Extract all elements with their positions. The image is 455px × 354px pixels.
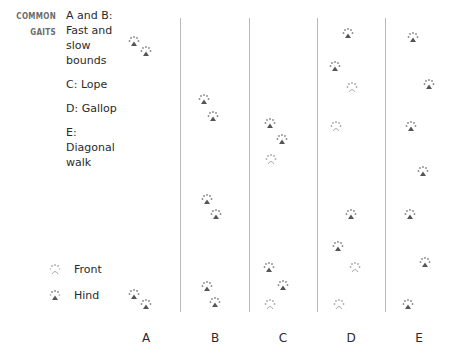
hind-paw-icon	[139, 298, 153, 312]
hind-paw-icon	[208, 296, 222, 310]
front-paw-icon	[345, 81, 359, 95]
hind-paw-icon	[328, 60, 342, 74]
hind-paw-icon	[404, 120, 418, 134]
hind-paw-icon	[139, 45, 153, 59]
hind-paw-icon	[209, 208, 223, 222]
hind-paw-icon	[344, 208, 358, 222]
hind-paw-icon	[422, 78, 436, 92]
front-paw-icon	[48, 263, 62, 277]
front-paw-icon	[332, 298, 346, 312]
hind-paw-icon	[406, 31, 420, 45]
legend-front-label: Front	[74, 263, 102, 276]
column-label-d: D	[341, 331, 361, 345]
gait-item-ab: A and B: Fast and slow bounds	[66, 8, 128, 68]
diagram-heading: COMMON GAITS	[6, 9, 56, 41]
hind-paw-icon	[275, 133, 289, 147]
gait-item-d: D: Gallop	[66, 101, 166, 116]
hind-paw-icon	[206, 110, 220, 124]
hind-paw-icon	[276, 279, 290, 293]
gait-list: A and B: Fast and slow bounds C: Lope D:…	[66, 8, 166, 179]
hind-paw-icon	[200, 280, 214, 294]
hind-paw-icon	[341, 27, 355, 41]
hind-paw-icon	[197, 93, 211, 107]
hind-paw-icon	[48, 289, 62, 303]
column-divider	[249, 18, 250, 312]
heading-line-1: COMMON	[6, 9, 56, 25]
column-label-e: E	[409, 331, 429, 345]
column-label-a: A	[136, 331, 156, 345]
gait-item-c: C: Lope	[66, 77, 166, 92]
front-paw-icon	[263, 298, 277, 312]
front-paw-icon	[348, 261, 362, 275]
hind-paw-icon	[418, 256, 432, 270]
front-paw-icon	[329, 120, 343, 134]
front-paw-icon	[264, 153, 278, 167]
column-divider	[317, 18, 318, 312]
column-label-c: C	[273, 331, 293, 345]
column-divider	[385, 18, 386, 312]
hind-paw-icon	[403, 208, 417, 222]
column-label-b: B	[205, 331, 225, 345]
hind-paw-icon	[416, 165, 430, 179]
hind-paw-icon	[263, 117, 277, 131]
legend-hind-label: Hind	[74, 289, 99, 302]
column-divider	[180, 18, 181, 312]
gait-item-e: E: Diagonal walk	[66, 125, 128, 170]
hind-paw-icon	[262, 261, 276, 275]
hind-paw-icon	[200, 193, 214, 207]
hind-paw-icon	[401, 298, 415, 312]
heading-line-2: GAITS	[6, 25, 56, 41]
hind-paw-icon	[331, 240, 345, 254]
